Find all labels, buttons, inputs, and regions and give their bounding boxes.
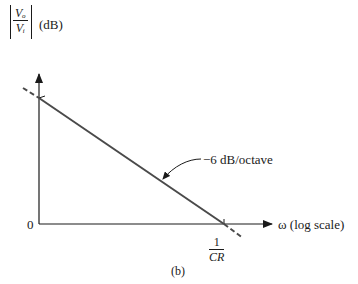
asymptote-line — [39, 98, 224, 224]
abs-bar-right — [31, 5, 32, 39]
slope-annotation: −6 dB/octave — [203, 153, 273, 166]
x-tick-denominator: CR — [209, 250, 224, 264]
y-axis-unit-label: (dB) — [39, 18, 63, 31]
asymptote-dashed-left — [23, 88, 39, 98]
origin-label: 0 — [27, 218, 34, 231]
x-tick-numerator: 1 — [209, 235, 224, 250]
y-axis-numerator: Vₒ — [13, 6, 28, 21]
annotation-pointer-arrow — [163, 159, 201, 179]
x-axis-label: ω (log scale) — [278, 218, 344, 231]
y-axis-fraction: Vₒ Vᵢ — [13, 6, 28, 35]
x-tick-label-fraction: 1 CR — [209, 235, 224, 264]
asymptote-dashed-right — [224, 224, 243, 238]
figure-caption: (b) — [171, 265, 185, 277]
plot-canvas — [0, 0, 358, 284]
abs-bar-left — [10, 5, 11, 39]
y-axis-denominator: Vᵢ — [13, 21, 28, 35]
